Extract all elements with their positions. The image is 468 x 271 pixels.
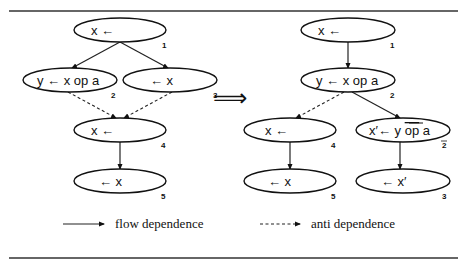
svg-text:5: 5 (331, 192, 336, 201)
right-node-2bar: x′← y op a 2 (356, 118, 450, 150)
svg-text:5: 5 (161, 192, 166, 201)
right-node-2: y ← x op a 2 (301, 68, 395, 100)
svg-text:← x: ← x (99, 174, 123, 189)
edge-anti-2-4 (296, 92, 344, 118)
dependence-transformation-diagram: x ← 1 y ← x op a 2 ← x 3 x ← 4 ← x 5 ⟹ x… (0, 0, 468, 271)
edge-anti-3-4 (124, 92, 172, 118)
svg-text:2: 2 (111, 91, 116, 100)
left-node-5: ← x 5 (74, 169, 166, 201)
svg-text:1: 1 (390, 41, 395, 50)
left-node-2: y ← x op a 2 (23, 68, 117, 100)
svg-text:← x′: ← x′ (381, 174, 407, 189)
right-node-5: ← x 5 (244, 169, 336, 201)
svg-text:4: 4 (161, 141, 166, 150)
svg-text:← x: ← x (150, 73, 174, 88)
svg-text:x ←: x ← (91, 123, 114, 138)
svg-text:y ← x op a: y ← x op a (316, 73, 379, 88)
legend: flow dependence anti dependence (63, 216, 395, 231)
left-graph-edges (68, 42, 172, 169)
svg-text:2: 2 (390, 91, 395, 100)
svg-text:x ←: x ← (91, 23, 114, 38)
legend-flow-label: flow dependence (115, 216, 204, 231)
right-graph-edges (290, 42, 400, 169)
svg-text:y ← x op a: y ← x op a (37, 73, 100, 88)
left-node-1: x ← 1 (74, 18, 167, 50)
edge-anti-2-4 (68, 92, 116, 118)
svg-text:x′← y op a: x′← y op a (369, 123, 431, 138)
svg-text:x ←: x ← (265, 123, 288, 138)
svg-text:3: 3 (442, 192, 447, 201)
svg-text:← x: ← x (268, 174, 292, 189)
svg-text:1: 1 (162, 41, 167, 50)
edge-flow-1-2 (72, 42, 120, 68)
edge-flow-1-3 (120, 42, 168, 68)
svg-text:4: 4 (331, 141, 336, 150)
implies-arrow-icon: ⟹ (213, 84, 247, 112)
right-node-3: ← x′ 3 (356, 169, 450, 201)
left-node-3: ← x 3 (123, 68, 218, 100)
svg-text:x ←: x ← (318, 23, 341, 38)
legend-anti-label: anti dependence (311, 216, 395, 231)
svg-text:2: 2 (442, 141, 447, 150)
